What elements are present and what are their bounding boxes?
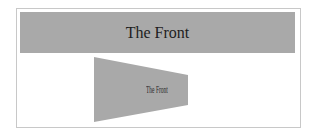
rotated-card: The Front — [94, 57, 188, 122]
rotated-card-shape — [94, 57, 188, 122]
front-panel-title: The Front — [126, 24, 190, 42]
rotated-card-label: The Front — [146, 84, 159, 96]
front-panel: The Front — [20, 12, 295, 53]
